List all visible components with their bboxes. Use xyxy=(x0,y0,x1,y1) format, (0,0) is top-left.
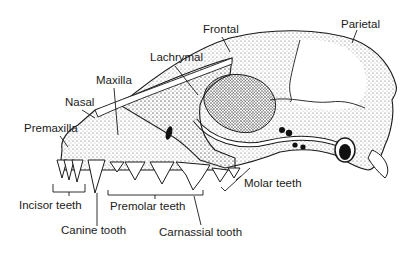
label-premolar-teeth: Premolar teeth xyxy=(110,201,185,213)
label-frontal: Frontal xyxy=(203,24,239,36)
label-molar-teeth: Molar teeth xyxy=(244,178,302,190)
label-canine-tooth: Canine tooth xyxy=(61,225,126,237)
label-incisor-teeth: Incisor teeth xyxy=(19,200,82,212)
label-lachrymal: Lachrymal xyxy=(150,52,203,64)
carnassial xyxy=(176,162,210,190)
canine xyxy=(88,160,105,193)
molar-2 xyxy=(228,168,240,178)
premolar-3 xyxy=(150,162,174,184)
skull-diagram: Frontal Parietal Lachrymal Maxilla Nasal… xyxy=(0,0,419,255)
label-nasal: Nasal xyxy=(65,97,94,109)
label-maxilla: Maxilla xyxy=(96,75,132,87)
premolar-2 xyxy=(125,162,145,180)
label-parietal: Parietal xyxy=(341,19,380,31)
molar-1 xyxy=(212,168,228,182)
incisor-3 xyxy=(72,160,83,182)
label-carnassial-tooth: Carnassial tooth xyxy=(159,227,242,239)
label-premaxilla: Premaxilla xyxy=(24,123,78,135)
